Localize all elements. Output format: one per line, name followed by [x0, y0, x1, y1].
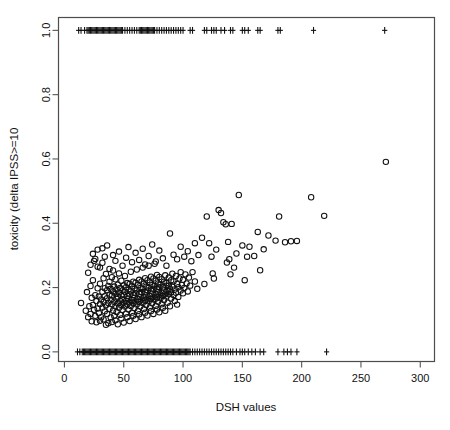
x-tick-label: 100 — [174, 372, 192, 384]
y-tick-label: 1.0 — [41, 23, 53, 38]
y-tick-label: 0.6 — [41, 151, 53, 166]
scatter-plot-figure: 050100150200250300 0.00.20.40.60.81.0 DS… — [0, 0, 450, 430]
plot-canvas: 050100150200250300 0.00.20.40.60.81.0 DS… — [0, 0, 450, 430]
y-axis-title: toxicity (delta IPSS>=10 — [8, 128, 20, 251]
x-tick-label: 50 — [118, 372, 130, 384]
y-tick-label: 0.8 — [41, 87, 53, 102]
rug-bottom-marks — [75, 348, 329, 355]
y-tick-label: 0.0 — [41, 344, 53, 359]
x-tick-label: 250 — [352, 372, 370, 384]
figure-background — [0, 0, 450, 430]
x-tick-label: 300 — [411, 372, 429, 384]
x-axis-title: DSH values — [216, 401, 277, 413]
x-tick-label: 0 — [61, 372, 67, 384]
x-tick-label: 200 — [292, 372, 310, 384]
x-tick-label: 150 — [233, 372, 251, 384]
y-tick-label: 0.4 — [41, 216, 53, 231]
y-tick-label: 0.2 — [41, 280, 53, 295]
